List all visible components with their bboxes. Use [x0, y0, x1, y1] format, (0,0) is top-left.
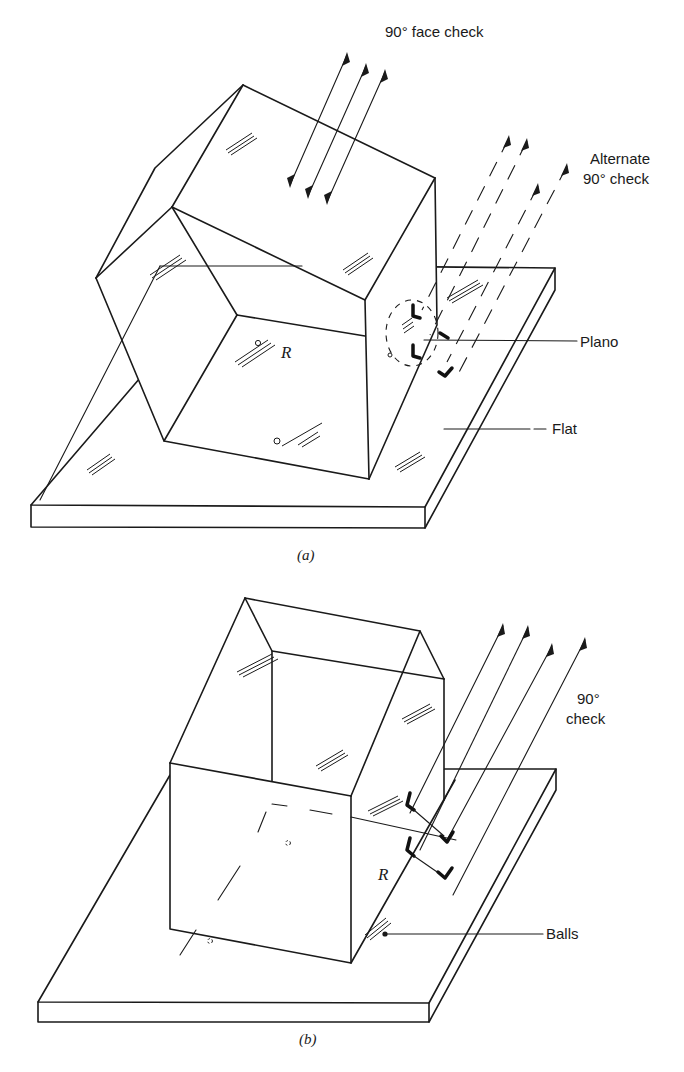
figure-a-caption: (a) [297, 547, 315, 564]
flat-label: Flat [552, 420, 578, 437]
upright-block-b [170, 598, 456, 963]
optical-square-check-diagram: R 90° face check Alternate 90° check [0, 0, 684, 1072]
alternate-check-label-line1: Alternate [590, 150, 650, 167]
figure-a: R 90° face check Alternate 90° check [31, 23, 650, 564]
alternate-check-arrows [422, 135, 569, 380]
figure-b-caption: (b) [299, 1031, 317, 1048]
tilted-cube-a [40, 85, 437, 500]
check-label-line2: check [566, 710, 606, 727]
balls-label: Balls [546, 925, 579, 942]
plano-label: Plano [580, 333, 618, 350]
reflector-label-b: R [377, 865, 389, 884]
alternate-check-label-line2: 90° check [583, 170, 650, 187]
reflector-label-a: R [280, 343, 292, 362]
figure-b: 90° check R Balls (b) [38, 598, 606, 1048]
face-check-label: 90° face check [385, 23, 484, 40]
check-label-line1: 90° [577, 690, 600, 707]
